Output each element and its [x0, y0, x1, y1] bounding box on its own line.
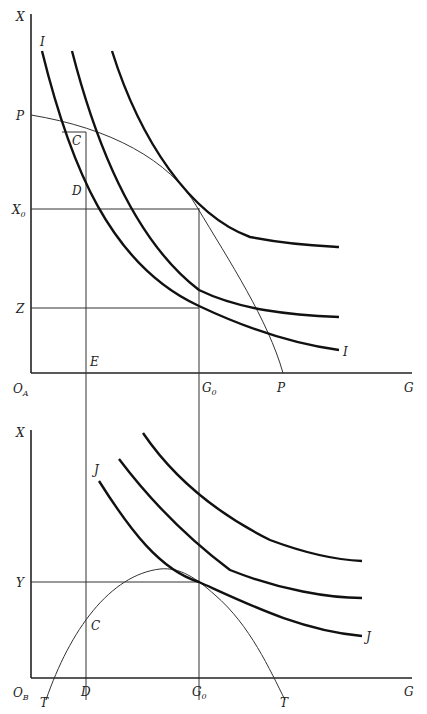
label-T-right: T: [280, 696, 289, 710]
indifference-curve-mid: [72, 51, 339, 317]
label-X0: X0: [11, 203, 26, 219]
top-origin-label: OA: [13, 382, 29, 398]
indifference-label-J-top: J: [91, 463, 100, 477]
top-x-axis-label: G: [404, 381, 414, 395]
indifference-curve-J-high: [143, 433, 362, 561]
indifference-curve-J-mid: [119, 459, 362, 598]
bottom-x-axis-label: G: [404, 685, 414, 699]
top-panel: X I P C D X0 Z E I OA G0 P G: [11, 10, 414, 700]
two-panel-diagram: X I P C D X0 Z E I OA G0 P G X J Y C J O…: [0, 0, 427, 714]
transformation-curve: [46, 569, 285, 700]
label-Z: Z: [15, 302, 25, 316]
indifference-label-J-right: J: [363, 630, 372, 644]
label-P-horizontal: P: [276, 381, 286, 395]
indifference-label-right: I: [342, 345, 348, 359]
bottom-panel: X J Y C J OB D G0 T T G: [13, 426, 414, 710]
label-T-left: T: [40, 696, 49, 710]
indifference-curve-high: [112, 51, 339, 247]
label-D-bottom: D: [80, 685, 91, 699]
label-G0-top: G0: [202, 381, 217, 397]
indifference-curve-J-low: [99, 481, 362, 636]
label-P-vertical: P: [15, 109, 25, 123]
label-C-top: C: [72, 134, 81, 148]
label-G0-bottom: G0: [192, 685, 207, 701]
label-D-top: D: [71, 184, 82, 198]
top-y-axis-label: X: [15, 10, 25, 24]
label-Y: Y: [16, 576, 25, 590]
indifference-curve-low: [42, 51, 339, 350]
label-E: E: [89, 355, 99, 369]
indifference-label-top: I: [39, 35, 45, 49]
bottom-y-axis-label: X: [15, 426, 25, 440]
production-possibility-curve: [31, 115, 283, 373]
label-C-bottom: C: [91, 619, 100, 633]
bottom-origin-label: OB: [13, 686, 29, 702]
